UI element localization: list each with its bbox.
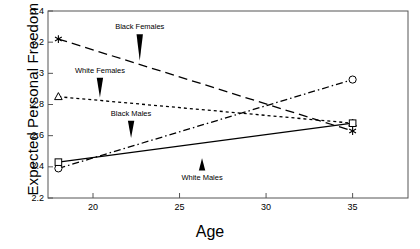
series-annotation-label: White Males <box>142 174 262 182</box>
annotation-arrow <box>97 78 103 98</box>
chart-container: Expected Personal Freedom Age 2.22.42.62… <box>0 0 420 249</box>
data-point-marker-asterisk <box>55 35 62 43</box>
data-point-marker-square <box>55 159 62 166</box>
annotation-arrow <box>128 121 134 138</box>
series-annotation-label: Black Females <box>80 23 200 31</box>
data-point-marker-square <box>349 120 356 127</box>
data-point-marker-circle <box>349 76 356 83</box>
plot-frame <box>48 11 408 198</box>
series-annotation-label: Black Males <box>71 110 191 118</box>
data-point-marker-asterisk <box>349 127 356 135</box>
series-line <box>58 123 352 162</box>
annotation-arrow <box>137 34 143 61</box>
series-line <box>58 80 352 169</box>
plot-area <box>0 0 420 249</box>
data-point-marker-triangle <box>55 93 63 100</box>
series-white-males <box>55 120 356 166</box>
series-annotation-label: White Females <box>40 67 160 75</box>
annotation-arrow <box>199 158 205 170</box>
